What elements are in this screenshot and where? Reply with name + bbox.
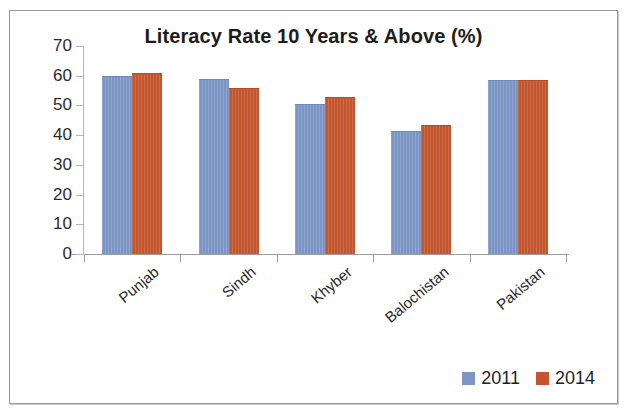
legend-entry-2011[interactable]: 2011 — [462, 368, 520, 389]
legend-entry-2014[interactable]: 2014 — [536, 368, 595, 389]
y-axis-tick — [76, 195, 84, 196]
bar-balochistan-2011 — [391, 131, 421, 254]
y-axis-tick-label: 20 — [32, 185, 72, 205]
x-axis-line — [72, 254, 569, 255]
x-axis-tick-origin — [84, 254, 85, 262]
bar-khyber-2011 — [295, 104, 325, 254]
x-axis-tick — [566, 254, 567, 262]
y-axis-tick — [76, 165, 84, 166]
chart-legend: 20112014 — [462, 368, 595, 389]
y-axis-tick — [76, 254, 84, 255]
bar-balochistan-2014 — [421, 125, 451, 254]
x-axis-label-sindh: Sindh — [218, 263, 258, 301]
legend-label-2011: 2011 — [481, 368, 520, 389]
y-axis-tick — [76, 76, 84, 77]
y-axis-tick — [76, 105, 84, 106]
y-axis-tick-label: 10 — [32, 214, 72, 234]
y-axis-tick-label: 60 — [32, 66, 72, 86]
y-axis-tick-label: 50 — [32, 95, 72, 115]
bar-sindh-2014 — [229, 88, 259, 254]
x-axis-label-khyber: Khyber — [308, 263, 355, 307]
chart-title: Literacy Rate 10 Years & Above (%) — [10, 25, 617, 48]
bar-sindh-2011 — [199, 79, 229, 254]
x-axis-tick — [373, 254, 374, 262]
bar-pakistan-2014 — [518, 80, 548, 254]
y-axis-tick-label: 70 — [32, 36, 72, 56]
bar-punjab-2011 — [102, 76, 132, 254]
y-axis-tick-label: 30 — [32, 155, 72, 175]
x-axis-tick — [470, 254, 471, 262]
legend-swatch-2011 — [462, 372, 475, 385]
bar-pakistan-2011 — [488, 80, 518, 254]
legend-label-2014: 2014 — [555, 368, 595, 389]
bar-punjab-2014 — [132, 73, 162, 254]
x-axis-tick — [180, 254, 181, 262]
y-axis-tick-label: 40 — [32, 125, 72, 145]
bar-khyber-2014 — [325, 97, 355, 254]
plot-area — [84, 46, 566, 254]
y-axis-tick — [76, 46, 84, 47]
legend-swatch-2014 — [536, 372, 549, 385]
x-axis-label-balochistan: Balochistan — [381, 263, 451, 326]
y-axis-tick — [76, 135, 84, 136]
chart-frame: Literacy Rate 10 Years & Above (%) 70605… — [9, 10, 618, 404]
x-axis-label-pakistan: Pakistan — [493, 263, 548, 313]
y-axis-tick-label: 0 — [32, 244, 72, 264]
y-axis-tick — [76, 224, 84, 225]
x-axis-label-punjab: Punjab — [116, 263, 163, 306]
x-axis-tick — [277, 254, 278, 262]
